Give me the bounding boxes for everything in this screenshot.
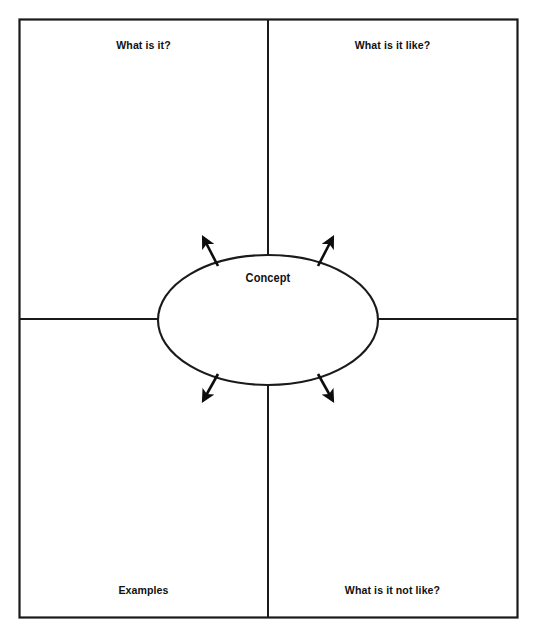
quadrant-label-examples: Examples bbox=[29, 585, 258, 597]
quadrant-label-what-is-it: What is it? bbox=[29, 40, 258, 52]
quadrant-label-what-is-it-like: What is it like? bbox=[278, 40, 507, 52]
quadrant-label-what-is-it-not-like: What is it not like? bbox=[278, 585, 507, 597]
concept-label: Concept bbox=[176, 272, 360, 284]
frayer-model-diagram: What is it? What is it like? Examples Wh… bbox=[0, 0, 537, 637]
diagram-canvas bbox=[0, 0, 537, 637]
